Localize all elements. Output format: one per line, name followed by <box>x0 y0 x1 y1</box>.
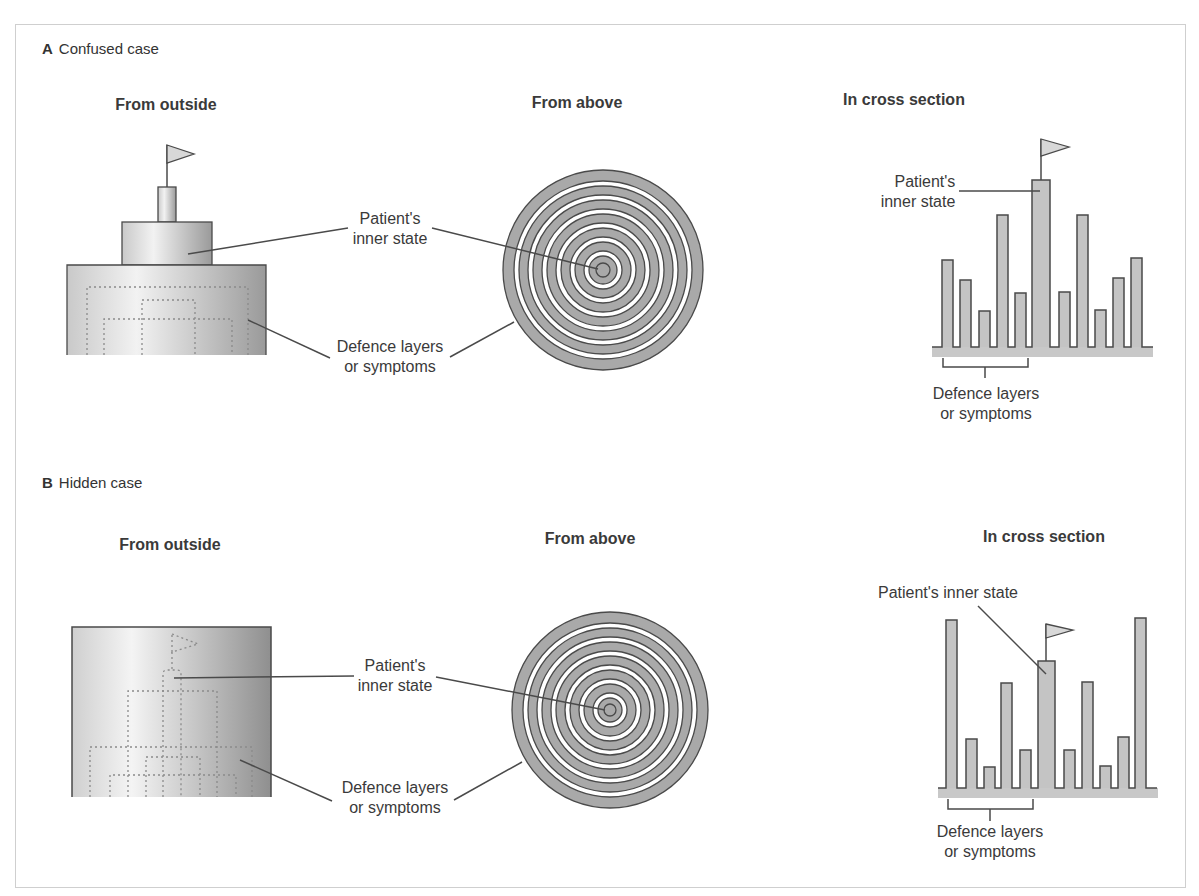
a-tower-top <box>158 187 176 222</box>
a-tower-middle <box>122 222 212 265</box>
diagram-canvas <box>0 0 1199 896</box>
b-defence-leader-right <box>454 762 522 800</box>
a-above-target <box>503 170 703 370</box>
b-bars <box>938 618 1157 788</box>
a-cross-section-chart <box>932 139 1153 378</box>
a-defence-leader-right <box>450 322 514 357</box>
a-bars <box>932 180 1153 347</box>
b-cross-flag-icon <box>1046 624 1073 638</box>
b-above-target <box>512 612 708 808</box>
b-cross-section-chart <box>938 606 1158 821</box>
a-outside-castle <box>67 145 266 355</box>
a-cross-flag-icon <box>1041 139 1069 156</box>
b-cross-bracket <box>948 799 1033 821</box>
b-cross-inner-leader <box>978 606 1046 674</box>
a-tower-base <box>67 265 266 355</box>
a-cross-bracket <box>943 358 1028 378</box>
a-ground <box>932 347 1153 357</box>
b-outside-wall <box>72 627 271 797</box>
b-ground <box>938 788 1158 798</box>
a-flag-icon <box>167 145 194 163</box>
